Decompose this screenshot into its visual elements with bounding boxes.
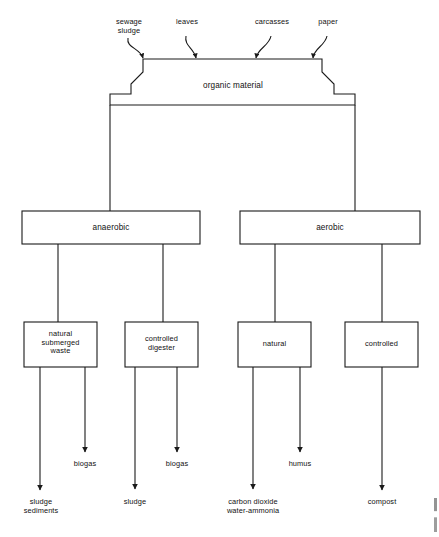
natural-submerged-waste-label: natural submerged waste — [26, 330, 95, 356]
output-label-sludge-sediments: sludge sediments — [12, 498, 70, 515]
source-label-sewage-sludge: sewage sludge — [104, 18, 154, 35]
organic-material-label: organic material — [178, 81, 288, 91]
controlled-digester-label: controlled digester — [127, 335, 196, 352]
output-label-biogas-1: biogas — [62, 460, 108, 469]
output-label-sludge: sludge — [112, 498, 158, 507]
aerobic-label: aerobic — [285, 223, 375, 233]
output-label-humus: humus — [277, 460, 323, 469]
source-label-paper: paper — [309, 18, 347, 27]
anaerobic-label: anaerobic — [66, 223, 156, 233]
arrow-carcasses — [256, 36, 271, 58]
controlled-label: controlled — [347, 340, 416, 349]
arrow-paper — [313, 36, 327, 58]
output-label-compost: compost — [359, 498, 405, 507]
natural-label: natural — [240, 340, 309, 349]
arrow-sewage-sludge — [128, 38, 143, 58]
source-label-leaves: leaves — [166, 18, 208, 27]
page-edge-artifact — [434, 498, 437, 532]
arrow-leaves — [186, 36, 196, 58]
output-label-carbon-dioxide-water-ammonia: carbon dioxide water-ammonia — [208, 498, 298, 515]
output-label-biogas-2: biogas — [154, 460, 200, 469]
source-label-carcasses: carcasses — [246, 18, 298, 27]
diagram-page: sewage sludge leaves carcasses paper org… — [0, 0, 439, 537]
